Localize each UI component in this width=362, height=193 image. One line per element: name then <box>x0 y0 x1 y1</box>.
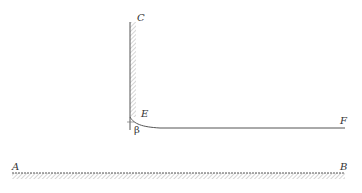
vertical-wall <box>130 22 136 130</box>
label-f: F <box>339 115 348 126</box>
ground-surface <box>12 173 345 179</box>
label-c: C <box>137 12 145 23</box>
label-b: B <box>339 161 347 172</box>
label-beta: β <box>134 124 140 135</box>
label-e: E <box>140 108 149 119</box>
label-a: A <box>11 161 19 172</box>
liquid-surface <box>130 117 345 128</box>
capillary-diagram: C E β F A B <box>0 0 362 193</box>
